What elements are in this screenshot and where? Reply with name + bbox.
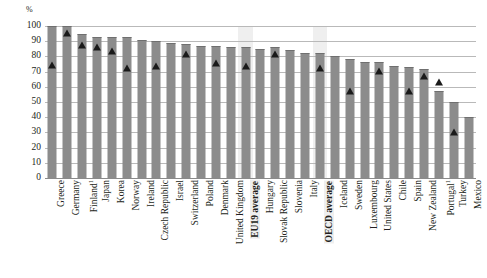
bar-group[interactable] <box>134 26 149 178</box>
bar[interactable] <box>390 66 399 178</box>
x-tick-label: Israel <box>175 180 185 201</box>
bar-group[interactable] <box>179 26 194 178</box>
bar[interactable] <box>405 67 414 178</box>
x-tick-label: Japan <box>101 180 111 202</box>
bar[interactable] <box>419 69 428 178</box>
bar[interactable] <box>345 59 354 178</box>
bar-group[interactable] <box>342 26 357 178</box>
bar-group[interactable] <box>313 26 328 178</box>
bar-group[interactable] <box>402 26 417 178</box>
bar-group[interactable] <box>357 26 372 178</box>
y-tick-label-90: 90 <box>17 36 41 46</box>
bar[interactable] <box>122 37 131 178</box>
bar-group[interactable] <box>75 26 90 178</box>
bar-group[interactable] <box>253 26 268 178</box>
y-tick-label-20: 20 <box>17 143 41 153</box>
bar[interactable] <box>360 62 369 178</box>
bar-group[interactable] <box>194 26 209 178</box>
bar[interactable] <box>256 49 265 178</box>
x-tick-label: Ireland <box>146 180 156 207</box>
triangle-marker <box>63 30 71 37</box>
triangle-marker <box>420 72 428 79</box>
bar[interactable] <box>226 47 235 178</box>
bar[interactable] <box>48 26 57 178</box>
x-tick-label: Spain <box>413 180 423 202</box>
bar-group[interactable] <box>431 26 446 178</box>
bar-group[interactable] <box>283 26 298 178</box>
bar[interactable] <box>330 56 339 178</box>
triangle-marker <box>450 128 458 135</box>
bar[interactable] <box>301 53 310 178</box>
x-tick-label: Czech Republic <box>160 180 170 240</box>
triangle-marker <box>93 43 101 50</box>
bar[interactable] <box>464 117 473 178</box>
y-tick-label-40: 40 <box>17 112 41 122</box>
bar-group[interactable] <box>327 26 342 178</box>
bar[interactable] <box>449 102 458 178</box>
x-tick-label: Mexico <box>473 180 483 209</box>
bar[interactable] <box>137 40 146 178</box>
bar[interactable] <box>271 47 280 178</box>
bar[interactable] <box>63 26 72 178</box>
x-tick-label: United Kingdom <box>235 180 245 244</box>
bar[interactable] <box>375 62 384 178</box>
triangle-marker <box>78 42 86 49</box>
x-tick-label: Finland1 <box>86 180 99 212</box>
y-tick-label-10: 10 <box>17 158 41 168</box>
bar-group[interactable] <box>223 26 238 178</box>
triangle-marker <box>182 51 190 58</box>
triangle-marker <box>152 63 160 70</box>
y-tick-label-50: 50 <box>17 97 41 107</box>
bar-group[interactable] <box>298 26 313 178</box>
x-tick-label: Denmark <box>220 180 230 215</box>
x-tick-label: Slovenia <box>294 180 304 213</box>
triangle-marker <box>316 64 324 71</box>
bar-group[interactable] <box>446 26 461 178</box>
x-tick-label: United States <box>383 180 393 231</box>
triangle-marker <box>242 63 250 70</box>
bar[interactable] <box>78 34 87 178</box>
bar-group[interactable] <box>208 26 223 178</box>
x-tick-label: Italy <box>309 180 319 197</box>
triangle-marker <box>271 51 279 58</box>
bar-group[interactable] <box>45 26 60 178</box>
bar[interactable] <box>197 46 206 178</box>
bar[interactable] <box>182 44 191 178</box>
bar-chart: % 0102030405060708090100 GreeceGermanyFi… <box>0 0 487 278</box>
bar-group[interactable] <box>268 26 283 178</box>
bar[interactable] <box>315 53 324 178</box>
bar[interactable] <box>167 43 176 178</box>
bar-group[interactable] <box>104 26 119 178</box>
triangle-marker <box>375 68 383 75</box>
x-tick-label: Switzerland <box>190 180 200 225</box>
plot-area <box>45 26 476 178</box>
bar-group[interactable] <box>372 26 387 178</box>
y-tick-label-0: 0 <box>17 173 41 183</box>
bar-group[interactable] <box>387 26 402 178</box>
bar[interactable] <box>434 91 443 178</box>
x-tick-label: Greece <box>56 180 66 207</box>
triangle-marker <box>123 64 131 71</box>
x-tick-label: New Zealand <box>428 180 438 231</box>
bar[interactable] <box>93 37 102 178</box>
x-tick-label: OECD average <box>324 180 334 243</box>
bar-series <box>45 26 476 178</box>
x-axis-tick-labels: GreeceGermanyFinland1JapanKoreaNorwayIre… <box>45 180 476 278</box>
x-tick-label: Turkey <box>458 180 468 207</box>
bar[interactable] <box>107 37 116 178</box>
bar-group[interactable] <box>119 26 134 178</box>
x-tick-label: Luxembourg <box>369 180 379 229</box>
bar[interactable] <box>152 41 161 178</box>
bar-group[interactable] <box>417 26 432 178</box>
bar-group[interactable] <box>90 26 105 178</box>
y-tick-label-80: 80 <box>17 51 41 61</box>
bar-group[interactable] <box>238 26 253 178</box>
x-tick-label: Portugal1 <box>443 180 456 215</box>
y-axis-unit-label: % <box>26 5 33 14</box>
triangle-marker <box>435 78 443 85</box>
bar-group[interactable] <box>461 26 476 178</box>
bar-group[interactable] <box>60 26 75 178</box>
bar-group[interactable] <box>149 26 164 178</box>
bar[interactable] <box>286 50 295 178</box>
bar-group[interactable] <box>164 26 179 178</box>
